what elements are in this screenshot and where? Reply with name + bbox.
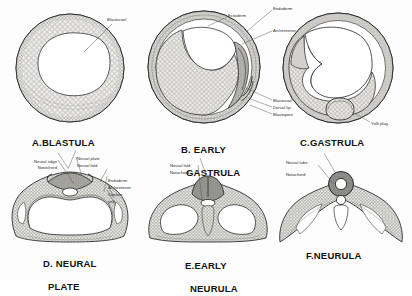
caption-panel-d-line2: PLATE [26, 281, 97, 293]
caption-panel-a: A.BLASTULA [32, 137, 95, 148]
leaders-panel-f [274, 156, 408, 248]
caption-panel-d-line1: D. NEURAL [43, 258, 97, 269]
leaders-panel-b [142, 4, 274, 132]
caption-panel-c: C.GASTRULA [300, 137, 364, 148]
caption-panel-e: E.EARLY NEURULA [168, 248, 238, 296]
panel-b-early-gastrula: Ectoderm Endoderm Archenteron Blastocoel… [142, 4, 274, 132]
caption-panel-b-line1: B. EARLY [181, 144, 226, 155]
leaders-panel-d [4, 154, 138, 244]
panel-a-blastula: Blastocoel A.BLASTULA [8, 6, 138, 131]
leader-yolk-plug-c [278, 6, 406, 132]
caption-panel-e-line2: NEURULA [168, 283, 238, 295]
caption-panel-f: F.NEURULA [306, 250, 362, 261]
caption-panel-d: D. NEURAL PLATE [26, 246, 97, 296]
panel-c-gastrula: Yolk plug C.GASTRULA [278, 6, 406, 132]
leaders-panel-e [142, 160, 274, 246]
panel-e-early-neurula: Neural fold Notochord E.EARLY NEURULA [142, 170, 274, 246]
leader-blastocoel-a [68, 22, 116, 62]
caption-panel-e-line1: E.EARLY [185, 260, 227, 271]
panel-d-neural-plate: Neural ridge Notochord Neural plate Neur… [4, 166, 138, 244]
panel-f-neurula: Neural tube Notochord F.NEURULA [274, 168, 408, 248]
